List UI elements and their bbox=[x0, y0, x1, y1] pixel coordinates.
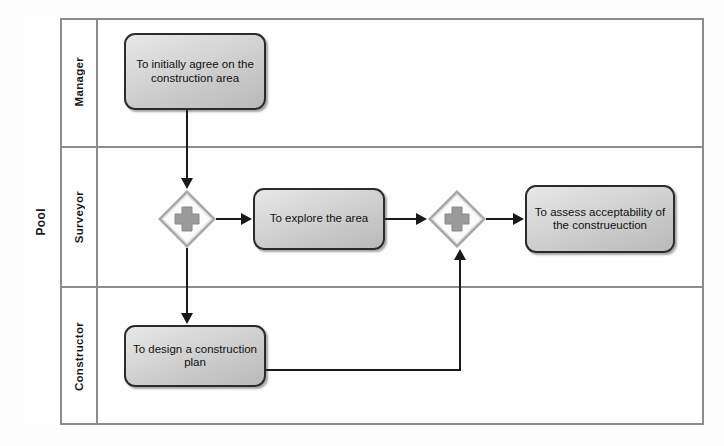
flow-gw1-design-arrowhead bbox=[181, 313, 193, 324]
flow-agree-gw1-arrowhead bbox=[181, 178, 193, 189]
gateway-parallel-join[interactable] bbox=[428, 190, 486, 248]
flow-gw1-explore-line[interactable] bbox=[216, 218, 243, 220]
task-label: To design a construction plan bbox=[130, 343, 260, 370]
task-label: To initially agree on the construction a… bbox=[130, 58, 260, 85]
lane-header-constructor[interactable]: Constructor bbox=[62, 288, 98, 425]
task-initially-agree[interactable]: To initially agree on the construction a… bbox=[124, 33, 266, 110]
plus-icon bbox=[158, 190, 216, 248]
flow-gw1-design-line[interactable] bbox=[186, 248, 188, 316]
flow-gw2-assess-line[interactable] bbox=[486, 218, 515, 220]
task-assess-acceptability[interactable]: To assess acceptability of the construeu… bbox=[525, 185, 675, 253]
flow-gw1-explore-arrowhead bbox=[241, 213, 252, 225]
task-label: To assess acceptability of the construeu… bbox=[531, 206, 669, 233]
lane-label-constructor: Constructor bbox=[73, 322, 85, 391]
flow-explore-gw2-arrowhead bbox=[416, 213, 427, 225]
diagram-canvas: Pool Manager Surveyor Constructor bbox=[0, 0, 724, 446]
plus-icon bbox=[428, 190, 486, 248]
pool-label-text: Pool bbox=[34, 208, 48, 236]
task-explore-area[interactable]: To explore the area bbox=[253, 188, 385, 250]
lane-label-surveyor: Surveyor bbox=[73, 191, 85, 243]
lane-label-manager: Manager bbox=[73, 57, 85, 106]
flow-gw2-assess-arrowhead bbox=[513, 213, 524, 225]
gateway-parallel-split[interactable] bbox=[158, 190, 216, 248]
task-label: To explore the area bbox=[270, 212, 368, 226]
pool-label[interactable]: Pool bbox=[22, 18, 62, 425]
flow-design-gw2-arrowhead bbox=[454, 249, 466, 260]
lane-header-manager[interactable]: Manager bbox=[62, 18, 98, 146]
lane-header-surveyor[interactable]: Surveyor bbox=[62, 148, 98, 286]
flow-design-gw2-segment-v[interactable] bbox=[459, 258, 461, 371]
flow-agree-gw1-line[interactable] bbox=[186, 110, 188, 180]
flow-design-gw2-segment-h[interactable] bbox=[266, 369, 461, 371]
flow-explore-gw2-line[interactable] bbox=[385, 218, 418, 220]
task-design-construction-plan[interactable]: To design a construction plan bbox=[124, 325, 266, 387]
